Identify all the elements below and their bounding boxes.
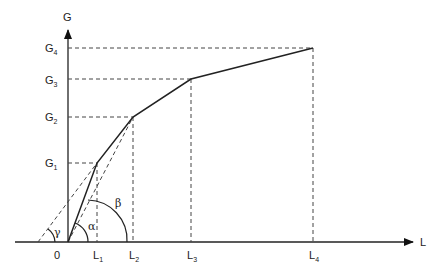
gamma-label: γ [54,226,61,239]
l2-label: L2 [129,249,139,263]
g2-label: G2 [45,111,58,125]
alpha-arc [75,223,88,242]
g-axis-label: G [63,11,72,23]
g4-label: G4 [45,42,58,56]
vertical-guides [97,48,313,242]
l-axis-label: L [420,236,426,248]
g1-label: G1 [45,157,58,171]
g3-label: G3 [45,74,58,88]
origin-label: 0 [54,249,60,261]
g-l-diagram: G L 0 G1 G2 G3 G4 L1 L2 L3 L4 α β γ [0,0,431,276]
alpha-label: α [88,220,96,233]
l1-label: L1 [93,249,103,263]
beta-label: β [115,197,121,210]
l4-label: L4 [309,249,319,263]
l3-label: L3 [187,249,197,263]
